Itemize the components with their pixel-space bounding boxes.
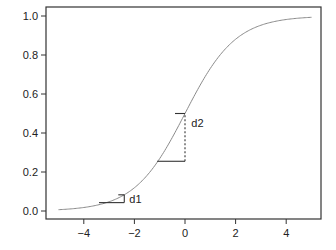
- y-axis: 0.00.20.40.60.81.0: [23, 10, 46, 217]
- y-tick-label: 0.2: [23, 166, 38, 178]
- y-tick-label: 0.0: [23, 205, 38, 217]
- y-tick-label: 0.4: [23, 127, 38, 139]
- x-tick-label: −4: [78, 227, 91, 239]
- annotation-label: d1: [129, 193, 141, 205]
- x-tick-label: 4: [283, 227, 289, 239]
- x-tick-label: 0: [182, 227, 188, 239]
- y-tick-label: 0.8: [23, 49, 38, 61]
- x-tick-label: −2: [128, 227, 141, 239]
- annotation-d2: d2: [157, 114, 203, 162]
- logistic-chart: 0.00.20.40.60.81.0 −4−2024 d1d2: [0, 0, 336, 250]
- y-tick-label: 0.6: [23, 88, 38, 100]
- annotations: d1d2: [99, 114, 204, 206]
- annotation-d1: d1: [99, 193, 142, 205]
- x-axis: −4−2024: [78, 219, 290, 239]
- x-tick-label: 2: [233, 227, 239, 239]
- y-tick-label: 1.0: [23, 10, 38, 22]
- annotation-label: d2: [191, 117, 203, 129]
